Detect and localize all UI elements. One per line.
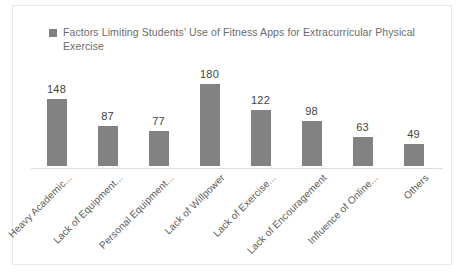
plot-area: 1488777180122986349: [31, 66, 439, 166]
chart-container: Factors Limiting Students' Use of Fitnes…: [12, 5, 452, 265]
bar-value-label: 77: [152, 115, 165, 128]
bar[interactable]: [302, 121, 322, 166]
bar-value-label: 98: [305, 105, 318, 118]
bar-group: 122: [235, 66, 286, 166]
bar-group: 180: [184, 66, 235, 166]
bar[interactable]: [251, 110, 271, 166]
x-axis-line: [31, 168, 443, 169]
chart-legend: Factors Limiting Students' Use of Fitnes…: [49, 25, 421, 53]
bar-value-label: 148: [47, 83, 66, 96]
legend-label: Factors Limiting Students' Use of Fitnes…: [63, 25, 421, 53]
bar[interactable]: [149, 131, 169, 166]
bar-value-label: 87: [101, 110, 114, 123]
bar-value-label: 180: [200, 68, 219, 81]
bar-group: 98: [286, 66, 337, 166]
x-axis-label: Others: [401, 172, 430, 201]
bar[interactable]: [404, 144, 424, 166]
bar[interactable]: [47, 99, 67, 166]
bar[interactable]: [200, 84, 220, 166]
bar[interactable]: [353, 137, 373, 166]
bar-value-label: 63: [356, 121, 369, 134]
bar-group: 77: [133, 66, 184, 166]
bar-group: 87: [82, 66, 133, 166]
bar-group: 49: [388, 66, 439, 166]
bar-group: 63: [337, 66, 388, 166]
legend-square-marker: [49, 29, 57, 37]
bar-group: 148: [31, 66, 82, 166]
bar[interactable]: [98, 126, 118, 166]
bar-value-label: 49: [407, 128, 420, 141]
x-axis-category-labels: Heavy Academic...Lack of Equipment...Per…: [31, 172, 443, 242]
bar-value-label: 122: [251, 94, 270, 107]
